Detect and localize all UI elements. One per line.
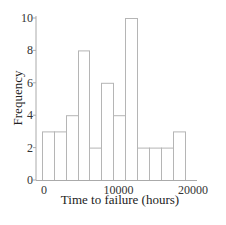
histogram-bar (67, 116, 79, 181)
y-tick-label: 4 (27, 108, 33, 122)
histogram-bar (138, 148, 150, 180)
y-tick-label: 8 (27, 43, 33, 57)
y-tick-label: 6 (27, 76, 33, 90)
histogram-bar (114, 116, 126, 181)
histogram-bar (90, 148, 102, 180)
histogram-bar (126, 19, 138, 181)
x-axis-title: Time to failure (hours) (40, 192, 200, 208)
y-axis-title: Frequency (10, 58, 26, 138)
y-tick-label: 2 (27, 141, 33, 155)
histogram-bar (102, 83, 114, 180)
histogram-bars (43, 19, 186, 181)
y-tick-label: 0 (27, 173, 33, 187)
histogram-bar (162, 148, 174, 180)
histogram-bar (150, 148, 162, 180)
histogram-bar (55, 132, 67, 181)
y-tick-label: 10 (21, 11, 33, 25)
histogram-bar (43, 132, 55, 181)
histogram-bar (79, 51, 90, 181)
histogram-bar (174, 132, 186, 181)
